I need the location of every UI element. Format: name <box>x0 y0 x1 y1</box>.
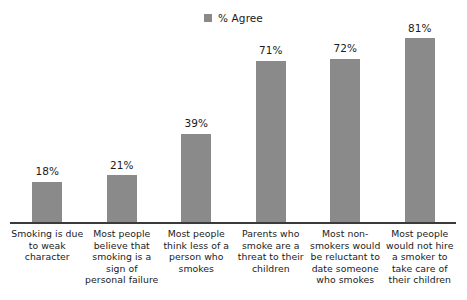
bar-chart: % Agree 18% 21% 39% 71% 72% <box>0 0 467 300</box>
bar-rect[interactable] <box>32 182 62 223</box>
plot-area: 18% 21% 39% 71% 72% 81% <box>0 0 467 223</box>
x-axis-baseline <box>10 222 456 224</box>
x-axis-category-labels: Smoking is due to weak character Most pe… <box>10 228 457 286</box>
bar-value-label: 21% <box>110 160 134 171</box>
bar-slot: 71% <box>235 0 307 223</box>
bar-rect[interactable] <box>107 175 137 223</box>
bar-value-label: 39% <box>184 118 208 129</box>
bar-value-label: 71% <box>259 45 283 56</box>
category-label: Most non-smokers would be reluctant to d… <box>308 228 382 286</box>
category-label: Parents who smoke are a threat to their … <box>234 228 308 274</box>
category-label: Smoking is due to weak character <box>10 228 84 263</box>
bar-slot: 39% <box>160 0 232 223</box>
bar-value-label: 81% <box>408 23 432 34</box>
bar-slot: 18% <box>11 0 83 223</box>
bar-slot: 81% <box>384 0 456 223</box>
bar-rect[interactable] <box>181 134 211 223</box>
bar-rect[interactable] <box>405 38 435 223</box>
bar-rect[interactable] <box>330 59 360 223</box>
category-label: Most people would not hire a smoker to t… <box>383 228 457 286</box>
bar-series-percent-agree: 18% 21% 39% 71% 72% 81% <box>10 0 457 223</box>
bar-rect[interactable] <box>256 61 286 223</box>
bar-slot: 21% <box>86 0 158 223</box>
bar-slot: 72% <box>309 0 381 223</box>
category-label: Most people think less of a person who s… <box>159 228 233 274</box>
category-label: Most people believe that smoking is a si… <box>85 228 159 286</box>
bar-value-label: 18% <box>35 166 59 177</box>
bar-value-label: 72% <box>333 43 357 54</box>
